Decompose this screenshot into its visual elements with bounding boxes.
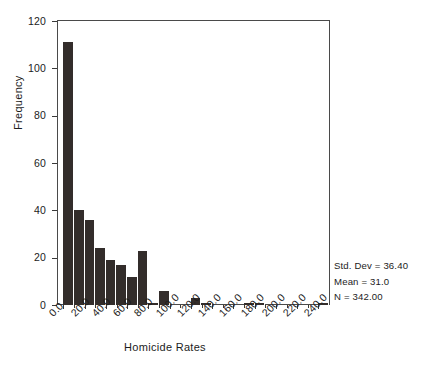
histogram-bar	[63, 42, 74, 305]
y-axis-tick	[52, 210, 57, 211]
y-axis-tick-label: 100	[28, 63, 46, 73]
y-axis-tick-label: 0	[40, 300, 46, 310]
y-axis-tick	[52, 21, 57, 22]
stat-std-dev: Std. Dev = 36.40	[334, 258, 424, 274]
histogram-bars	[58, 21, 329, 305]
statistics-annotation: Std. Dev = 36.40 Mean = 31.0 N = 342.00	[334, 258, 424, 305]
x-axis-title: Homicide Rates	[0, 341, 330, 353]
y-axis-tick-label: 60	[34, 158, 46, 168]
stat-n: N = 342.00	[334, 289, 424, 305]
y-axis-tick-label: 20	[34, 252, 46, 262]
y-axis-tick	[52, 68, 57, 69]
y-axis-tick	[52, 116, 57, 117]
y-axis-tick	[52, 258, 57, 259]
y-axis-tick-label: 40	[34, 205, 46, 215]
y-axis-tick-label: 120	[28, 16, 46, 26]
y-axis-tick-label: 80	[34, 110, 46, 120]
histogram-figure: 020406080100120 0.020.040.060.080.0100.0…	[0, 0, 425, 368]
y-axis-tick	[52, 163, 57, 164]
histogram-bar	[74, 210, 85, 305]
stat-mean: Mean = 31.0	[334, 274, 424, 290]
y-axis-title: Frequency	[12, 75, 24, 130]
histogram-bar	[85, 220, 96, 305]
